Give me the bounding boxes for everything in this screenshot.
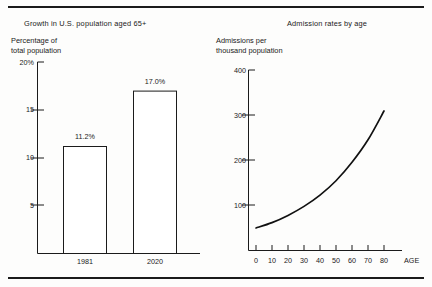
bar-rect-1981[interactable] [64, 147, 107, 254]
line-chart-graphics [212, 0, 432, 287]
bar-chart-graphics [0, 0, 212, 287]
figure-canvas: Growth in U.S. population aged 65+ Perce… [0, 0, 432, 287]
panel-bar-chart: Growth in U.S. population aged 65+ Perce… [0, 0, 212, 287]
panel-line-chart: Admission rates by age Admissions per th… [212, 0, 432, 287]
line-x-axis-name-label: AGE [404, 256, 419, 265]
admission-rate-curve[interactable] [256, 111, 384, 228]
bar-rect-2020[interactable] [134, 91, 177, 253]
